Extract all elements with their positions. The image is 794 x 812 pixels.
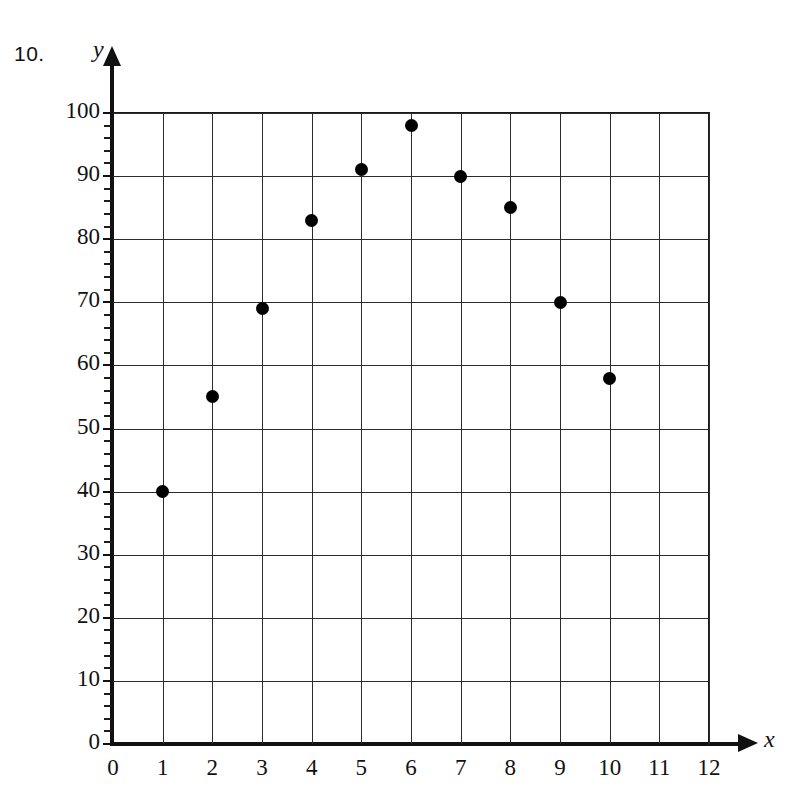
y-minor-tick (104, 390, 112, 392)
x-tick-label: 3 (242, 755, 282, 781)
x-axis-arrow-icon (738, 734, 758, 752)
y-minor-tick (104, 289, 112, 291)
x-tick-label: 12 (689, 755, 729, 781)
y-minor-tick (104, 162, 112, 164)
data-point (454, 170, 467, 183)
gridline-horizontal (113, 239, 709, 240)
y-minor-tick (104, 137, 112, 139)
y-minor-tick (104, 566, 112, 568)
y-tick-label: 70 (40, 287, 100, 313)
y-minor-tick (104, 213, 112, 215)
y-minor-tick (104, 377, 112, 379)
gridline-horizontal (113, 618, 709, 619)
y-minor-tick (104, 718, 112, 720)
y-minor-tick (104, 592, 112, 594)
y-tick-label: 90 (40, 161, 100, 187)
y-minor-tick (104, 314, 112, 316)
x-tick-label: 2 (192, 755, 232, 781)
x-tick-label: 7 (441, 755, 481, 781)
data-point (355, 163, 368, 176)
y-tick-label: 80 (40, 224, 100, 250)
y-minor-tick (104, 642, 112, 644)
y-tick-label: 40 (40, 477, 100, 503)
gridline-horizontal (113, 302, 709, 303)
y-minor-tick (104, 478, 112, 480)
y-minor-tick (104, 150, 112, 152)
data-point (256, 302, 269, 315)
y-minor-tick (104, 730, 112, 732)
x-tick-label: 5 (341, 755, 381, 781)
x-tick-label: 9 (540, 755, 580, 781)
y-minor-tick (104, 604, 112, 606)
gridline-horizontal (113, 555, 709, 556)
x-tick-label: 10 (590, 755, 630, 781)
y-minor-tick (104, 327, 112, 329)
data-point (504, 201, 517, 214)
y-minor-tick (104, 415, 112, 417)
y-tick-label: 30 (40, 540, 100, 566)
y-minor-tick (104, 188, 112, 190)
y-minor-tick (104, 402, 112, 404)
y-minor-tick (104, 579, 112, 581)
gridline-horizontal (113, 492, 709, 493)
gridline-horizontal (113, 176, 709, 177)
y-minor-tick (104, 440, 112, 442)
data-point (603, 372, 616, 385)
y-minor-tick (104, 629, 112, 631)
data-point (554, 296, 567, 309)
y-minor-tick (104, 263, 112, 265)
y-minor-tick (104, 125, 112, 127)
scatter-plot-figure: 10. y x 0102030405060708090100 012345678… (0, 0, 794, 812)
y-minor-tick (104, 516, 112, 518)
gridline-horizontal (113, 681, 709, 682)
x-tick-label: 0 (93, 755, 133, 781)
data-point (405, 119, 418, 132)
x-axis-label: x (764, 726, 775, 753)
y-minor-tick (104, 200, 112, 202)
y-axis-arrow-icon (103, 46, 121, 66)
y-minor-tick (104, 667, 112, 669)
y-minor-tick (104, 226, 112, 228)
y-minor-tick (104, 693, 112, 695)
y-tick-label: 20 (40, 603, 100, 629)
gridline-horizontal (113, 429, 709, 430)
gridline-horizontal (113, 113, 709, 114)
y-minor-tick (104, 465, 112, 467)
y-minor-tick (104, 352, 112, 354)
data-point (305, 214, 318, 227)
y-minor-tick (104, 339, 112, 341)
y-minor-tick (104, 541, 112, 543)
data-point (206, 390, 219, 403)
y-minor-tick (104, 251, 112, 253)
x-tick-label: 6 (391, 755, 431, 781)
data-point (156, 485, 169, 498)
y-minor-tick (104, 705, 112, 707)
x-tick-label: 8 (490, 755, 530, 781)
y-tick-label: 100 (40, 98, 100, 124)
x-tick-label: 1 (143, 755, 183, 781)
plot-area (113, 113, 709, 744)
x-tick-label: 4 (292, 755, 332, 781)
y-minor-tick (104, 276, 112, 278)
x-tick-label: 11 (639, 755, 679, 781)
y-minor-tick (104, 503, 112, 505)
y-minor-tick (104, 528, 112, 530)
y-minor-tick (104, 453, 112, 455)
y-tick-labels: 0102030405060708090100 (31, 0, 100, 812)
y-tick-label: 0 (40, 729, 100, 755)
y-tick-label: 60 (40, 350, 100, 376)
y-minor-tick (104, 655, 112, 657)
gridline-vertical (709, 113, 710, 744)
y-tick-label: 10 (40, 666, 100, 692)
gridline-horizontal (113, 365, 709, 366)
y-tick-label: 50 (40, 414, 100, 440)
